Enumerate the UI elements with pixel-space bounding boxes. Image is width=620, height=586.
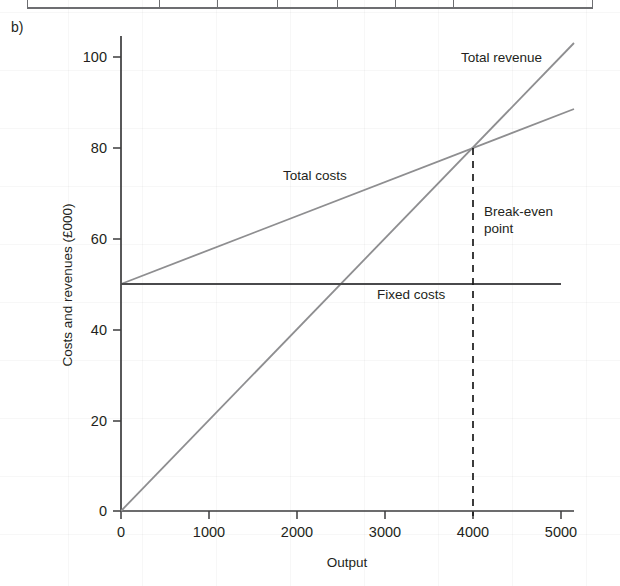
- y-tick-label-100: 100: [83, 49, 107, 65]
- x-tick-label-2000: 2000: [281, 524, 313, 540]
- x-axis-group: 0 1000 2000 3000 4000 5000 Output: [117, 511, 577, 570]
- x-tick-label-5000: 5000: [545, 524, 577, 540]
- series-label-total-costs: Total costs: [283, 168, 347, 183]
- x-axis-ticks: [121, 511, 561, 519]
- y-tick-label-0: 0: [99, 503, 107, 519]
- y-axis-title: Costs and revenues (£000): [60, 204, 75, 367]
- x-axis-title: Output: [327, 555, 368, 570]
- y-axis-ticks: [113, 57, 121, 511]
- y-axis-group: 100 80 60 40 20 0 Costs and revenues (£0…: [60, 36, 121, 519]
- x-tick-label-3000: 3000: [369, 524, 401, 540]
- break-even-chart: 100 80 60 40 20 0 Costs and revenues (£0…: [0, 0, 620, 586]
- y-tick-label-60: 60: [91, 231, 107, 247]
- series-line-total-costs: [121, 109, 574, 284]
- x-tick-label-1000: 1000: [193, 524, 225, 540]
- series-line-total-revenue: [121, 43, 574, 511]
- series-label-total-revenue: Total revenue: [461, 50, 542, 65]
- x-tick-label-4000: 4000: [457, 524, 489, 540]
- break-even-point-label-line2: point: [484, 221, 514, 236]
- y-tick-label-80: 80: [91, 140, 107, 156]
- series-label-fixed-costs: Fixed costs: [377, 287, 446, 302]
- break-even-point-label-line1: Break-even: [484, 204, 553, 219]
- y-tick-label-20: 20: [91, 413, 107, 429]
- y-axis-tick-labels: 100 80 60 40 20 0: [83, 49, 107, 519]
- x-tick-label-0: 0: [117, 524, 125, 540]
- y-tick-label-40: 40: [91, 322, 107, 338]
- x-axis-tick-labels: 0 1000 2000 3000 4000 5000: [117, 524, 577, 540]
